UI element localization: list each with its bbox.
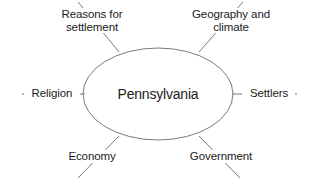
concept-web-diagram: Pennsylvania Reasons for settlement Geog… (0, 0, 317, 181)
node-label-geography: Geography and climate (178, 8, 284, 33)
node-label-settlers: Settlers (243, 87, 295, 100)
node-label-religion: Religion (24, 87, 80, 100)
center-node-label: Pennsylvania (98, 86, 218, 102)
node-label-reasons: Reasons for settlement (44, 8, 140, 33)
node-label-economy: Economy (61, 150, 123, 163)
node-label-government: Government (183, 150, 259, 163)
